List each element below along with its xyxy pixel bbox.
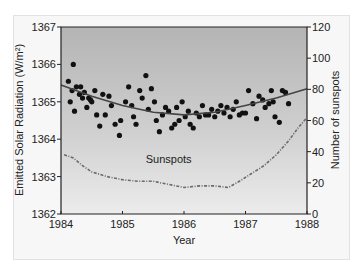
data-point (149, 86, 154, 91)
y-tick-label-left: 1362 (32, 208, 56, 220)
y-axis-title-right: Number of sunspots (329, 70, 341, 169)
data-point (246, 88, 251, 93)
data-point (66, 79, 71, 84)
data-point (106, 94, 111, 99)
data-point (157, 129, 162, 134)
data-point (152, 99, 157, 104)
data-point (123, 99, 128, 104)
data-point (172, 122, 177, 127)
y-tick-label-right: 0 (312, 208, 318, 220)
y-tick-label-right: 120 (312, 21, 330, 33)
plot-area (61, 27, 307, 214)
data-point (140, 95, 145, 100)
y-tick-label-right: 20 (312, 177, 324, 189)
data-point (137, 88, 142, 93)
chart-svg: 1984198519861987198813621363136413651366… (0, 0, 361, 269)
data-point (71, 62, 76, 67)
data-point (100, 92, 105, 97)
data-point (109, 103, 114, 108)
data-point (272, 114, 277, 119)
x-tick-label: 1986 (172, 218, 196, 230)
data-point (263, 105, 268, 110)
data-point (68, 99, 73, 104)
data-point (197, 114, 202, 119)
y-tick-label-left: 1363 (32, 171, 56, 183)
data-point (228, 114, 233, 119)
data-point (269, 88, 274, 93)
y-tick-label-right: 80 (312, 83, 324, 95)
data-point (92, 88, 97, 93)
data-point (243, 110, 248, 115)
data-point (113, 122, 118, 127)
data-point (133, 122, 138, 127)
y-tick-label-left: 1366 (32, 58, 56, 70)
data-point (191, 125, 196, 130)
data-point (126, 84, 131, 89)
y-tick-label-left: 1364 (32, 133, 56, 145)
data-point (174, 105, 179, 110)
data-point (154, 118, 159, 123)
data-point (97, 124, 102, 129)
data-point (84, 105, 89, 110)
data-point (209, 107, 214, 112)
data-point (176, 118, 181, 123)
y-tick-label-left: 1365 (32, 96, 56, 108)
y-tick-label-right: 100 (312, 52, 330, 64)
data-point (254, 116, 259, 121)
data-point (80, 95, 85, 100)
data-point (200, 103, 205, 108)
data-point (234, 99, 239, 104)
sunspots-annotation: Sunspots (146, 153, 192, 165)
data-point (180, 99, 185, 104)
data-point (131, 114, 136, 119)
y-axis-title-left: Emitted Solar Radiation (W/m²) (13, 44, 25, 196)
data-point (286, 101, 291, 106)
data-point (103, 112, 108, 117)
data-point (117, 133, 122, 138)
y-tick-label-right: 40 (312, 146, 324, 158)
data-point (72, 109, 77, 114)
data-point (218, 103, 223, 108)
data-point (89, 99, 94, 104)
x-tick-label: 1985 (110, 218, 134, 230)
data-point (94, 112, 99, 117)
data-point (186, 109, 191, 114)
data-point (78, 84, 83, 89)
data-point (212, 114, 217, 119)
data-point (256, 94, 261, 99)
x-tick-label: 1987 (233, 218, 257, 230)
y-tick-label-right: 60 (312, 115, 324, 127)
data-point (277, 120, 282, 125)
data-point (118, 118, 123, 123)
data-point (143, 73, 148, 78)
y-tick-label-left: 1367 (32, 21, 56, 33)
x-axis-title: Year (173, 234, 196, 246)
